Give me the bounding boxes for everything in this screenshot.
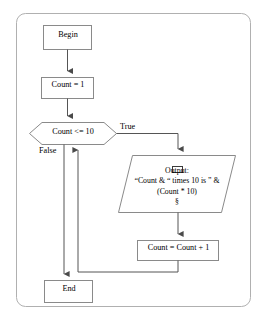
- node-begin-shape: [44, 26, 92, 50]
- node-output-line-1: Output:: [118, 166, 236, 176]
- node-increment-shape: [138, 241, 219, 261]
- node-end-shape: [45, 281, 93, 303]
- node-condition-shape: [30, 123, 117, 145]
- node-init-shape: [42, 78, 94, 99]
- missing-character-box-icon: [118, 157, 236, 166]
- node-output-line-3: (Count * 10): [118, 187, 236, 197]
- flowchart-canvas: Begin Count = 1 Count <= 10 Output: “Cou…: [0, 0, 267, 324]
- node-output-content: Output: “Count & “ times 10 is ” & (Coun…: [118, 157, 236, 207]
- node-output-line-2: “Count & “ times 10 is ” &: [118, 176, 236, 186]
- node-output-line-4: §: [118, 197, 236, 207]
